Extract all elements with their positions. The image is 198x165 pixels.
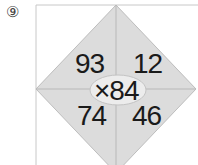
cell-bottom-left: 74 xyxy=(77,102,106,130)
cell-top-right: 12 xyxy=(133,50,162,78)
cell-top-left: 93 xyxy=(75,50,104,78)
cell-bottom-right: 46 xyxy=(132,102,161,130)
